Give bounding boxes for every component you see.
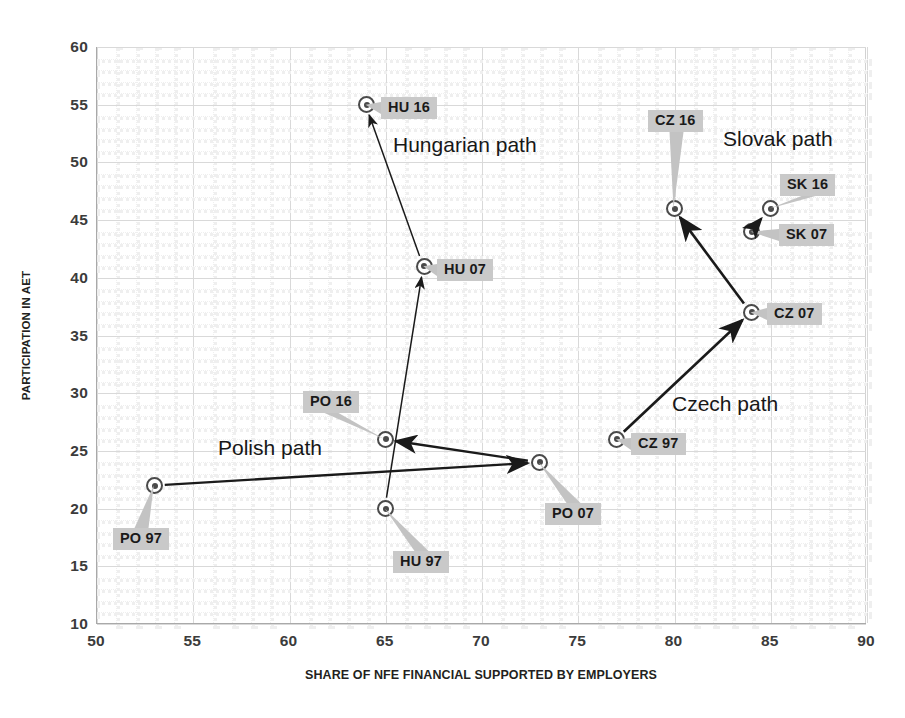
gridline-y-minor: [97, 416, 872, 420]
point-label-hu-16: HU 16: [381, 97, 437, 119]
x-axis-tick-labels: 505560657075808590: [96, 632, 866, 654]
x-axis-tick-label: 65: [376, 632, 394, 650]
gridline-y-major: [97, 624, 866, 625]
gridline-y-minor: [97, 116, 872, 120]
gridline-y-major: [97, 220, 866, 221]
gridline-x-minor: [694, 47, 698, 629]
gridline-x-minor: [540, 47, 544, 629]
gridline-x-minor: [270, 47, 274, 629]
point-label-po-97: PO 97: [113, 528, 169, 550]
gridline-y-minor: [97, 555, 872, 559]
y-axis-title: PARTICIPATION IN AET: [20, 47, 42, 624]
gridline-y-minor: [97, 70, 872, 74]
y-axis-tick-labels: 6055504540353025201510: [44, 47, 88, 624]
annotation-polish-path: Polish path: [218, 436, 322, 460]
point-label-cz-16: CZ 16: [648, 110, 703, 132]
gridline-y-minor: [97, 174, 872, 178]
y-axis-tick-label: 40: [70, 269, 88, 287]
gridline-y-major: [97, 105, 866, 106]
gridline-y-major: [97, 336, 866, 337]
gridline-x-minor: [174, 47, 178, 629]
gridline-y-minor: [97, 486, 872, 490]
gridline-x-minor: [232, 47, 236, 629]
gridline-y-minor: [97, 578, 872, 582]
y-axis-tick-label: 60: [70, 38, 88, 56]
gridline-x-minor: [598, 47, 602, 629]
y-axis-tick-label: 50: [70, 153, 88, 171]
data-point-po-97[interactable]: [146, 477, 163, 494]
x-axis-title: SHARE OF NFE FINANCIAL SUPPORTED BY EMPL…: [96, 668, 866, 682]
point-label-cz-97: CZ 97: [631, 433, 686, 455]
gridline-y-minor: [97, 93, 872, 97]
gridline-x-minor: [848, 47, 852, 629]
annotation-slovak-path: Slovak path: [723, 127, 833, 151]
gridline-x-major: [867, 47, 868, 623]
gridline-y-minor: [97, 359, 872, 363]
data-point-hu-07[interactable]: [416, 258, 433, 275]
data-point-cz-16[interactable]: [666, 200, 683, 217]
gridline-y-minor: [97, 185, 872, 189]
gridline-x-minor: [328, 47, 332, 629]
gridline-x-minor: [636, 47, 640, 629]
point-label-cz-07: CZ 07: [767, 303, 822, 325]
x-axis-tick-label: 55: [183, 632, 201, 650]
y-axis-tick-label: 20: [70, 500, 88, 518]
chart-canvas: 6055504540353025201510 50556065707580859…: [0, 0, 905, 718]
gridline-y-minor: [97, 589, 872, 593]
gridline-x-minor: [367, 47, 371, 629]
point-label-po-07: PO 07: [545, 503, 601, 525]
gridline-y-minor: [97, 370, 872, 374]
gridline-y-major: [97, 162, 866, 163]
gridline-y-minor: [97, 59, 872, 63]
data-point-po-16[interactable]: [377, 431, 394, 448]
gridline-y-minor: [97, 324, 872, 328]
y-axis-tick-label: 30: [70, 384, 88, 402]
x-axis-tick-label: 75: [568, 632, 586, 650]
y-axis-tick-label: 55: [70, 96, 88, 114]
data-point-sk-16[interactable]: [762, 200, 779, 217]
annotation-czech-path: Czech path: [672, 392, 778, 416]
x-axis-tick-label: 80: [665, 632, 683, 650]
data-point-po-07[interactable]: [531, 454, 548, 471]
gridline-y-minor: [97, 520, 872, 524]
gridline-y-minor: [97, 382, 872, 386]
gridline-x-minor: [655, 47, 659, 629]
gridline-y-minor: [97, 601, 872, 605]
gridline-x-minor: [559, 47, 563, 629]
gridline-y-minor: [97, 428, 872, 432]
y-axis-tick-label: 10: [70, 615, 88, 633]
y-axis-tick-label: 15: [70, 557, 88, 575]
y-axis-tick-label: 45: [70, 211, 88, 229]
y-axis-tick-label: 25: [70, 442, 88, 460]
y-axis-tick-label: 35: [70, 327, 88, 345]
gridline-x-minor: [347, 47, 351, 629]
gridline-x-minor: [617, 47, 621, 629]
gridline-x-minor: [251, 47, 255, 629]
gridline-y-minor: [97, 197, 872, 201]
gridline-y-minor: [97, 439, 872, 443]
gridline-x-minor: [213, 47, 217, 629]
data-point-hu-16[interactable]: [358, 96, 375, 113]
x-axis-tick-label: 85: [761, 632, 779, 650]
gridline-y-minor: [97, 532, 872, 536]
gridline-y-minor: [97, 462, 872, 466]
gridline-y-minor: [97, 612, 872, 616]
gridline-y-minor: [97, 543, 872, 547]
data-point-hu-97[interactable]: [377, 500, 394, 517]
gridline-y-major: [97, 566, 866, 567]
gridline-y-minor: [97, 474, 872, 478]
gridline-x-minor: [309, 47, 313, 629]
data-point-cz-07[interactable]: [743, 304, 760, 321]
point-label-sk-07: SK 07: [779, 224, 834, 246]
gridline-y-minor: [97, 209, 872, 213]
point-label-hu-97: HU 97: [393, 551, 449, 573]
gridline-y-minor: [97, 82, 872, 86]
x-axis-tick-label: 50: [87, 632, 105, 650]
point-label-hu-07: HU 07: [437, 259, 493, 281]
gridline-y-minor: [97, 347, 872, 351]
point-label-sk-16: SK 16: [780, 174, 835, 196]
data-point-cz-97[interactable]: [608, 431, 625, 448]
gridline-y-major: [97, 47, 866, 48]
gridline-y-minor: [97, 243, 872, 247]
data-point-sk-07[interactable]: [743, 223, 760, 240]
